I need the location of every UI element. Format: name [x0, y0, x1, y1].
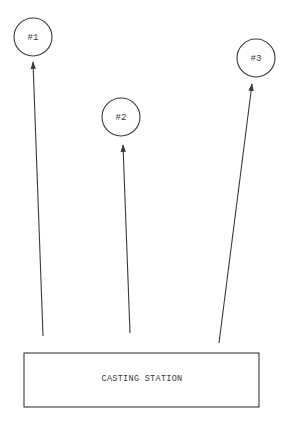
node-2-label: #2 [116, 113, 127, 123]
casting-station-label: CASTING STATION [101, 374, 182, 384]
casting-station-box: CASTING STATION [24, 353, 259, 407]
arrow-to-node-2 [123, 145, 130, 333]
diagram-canvas: #1 #2 #3 CASTING STATION [0, 0, 288, 430]
arrow-to-node-3 [219, 84, 252, 343]
node-3-label: #3 [251, 54, 262, 64]
node-2: #2 [102, 98, 140, 136]
node-1: #1 [14, 18, 52, 56]
node-3: #3 [237, 39, 275, 77]
arrow-to-node-1 [33, 62, 43, 336]
node-1-label: #1 [28, 33, 39, 43]
